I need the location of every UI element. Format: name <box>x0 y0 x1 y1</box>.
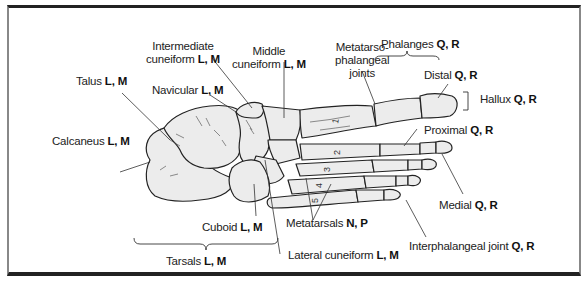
toe-2-middle <box>420 142 436 154</box>
leader-medial <box>442 154 463 194</box>
toe-3-middle <box>408 160 422 170</box>
cuboid-bone <box>229 160 269 202</box>
metatarsal-number-2: 2 <box>332 150 342 155</box>
label-proximal: Proximal Q, R <box>424 124 493 137</box>
label-distal: Distal Q, R <box>424 69 477 82</box>
toe-3-proximal <box>372 160 408 172</box>
toe-3-distal <box>422 159 436 169</box>
toe-2-proximal <box>380 144 420 156</box>
label-medial: Medial Q, R <box>439 199 498 212</box>
toe-4-distal <box>408 175 420 185</box>
metatarsal-number-5: 5 <box>310 198 320 203</box>
tarsals-brace <box>134 238 278 250</box>
label-interphalangeal-joint: Interphalangeal joint Q, R <box>409 240 534 253</box>
label-middle-cuneiform: Middle cuneiform L, M <box>232 45 306 71</box>
metatarsal-3-bone <box>296 160 374 176</box>
leader-calcaneus <box>120 162 150 172</box>
metatarsal-number-3: 3 <box>322 167 332 172</box>
toe-4-proximal <box>364 176 396 188</box>
label-tarsals: Tarsals L, M <box>166 255 226 268</box>
label-navicular: Navicular L, M <box>152 84 223 97</box>
hallux-bracket <box>463 92 468 110</box>
label-intermediate-cuneiform: Intermediate cuneiform L, M <box>146 40 220 66</box>
leader-talus <box>122 93 170 140</box>
label-phalanges: Phalanges Q, R <box>381 38 459 51</box>
label-talus: Talus L, M <box>76 75 127 88</box>
label-cuboid: Cuboid L, M <box>202 221 262 234</box>
leader-interphalangeal <box>406 200 426 237</box>
label-metatarsals: Metatarsals N, P <box>286 217 368 230</box>
label-calcaneus: Calcaneus L, M <box>52 135 130 148</box>
label-hallux: Hallux Q, R <box>480 93 537 106</box>
toe-5-proximal <box>356 190 384 202</box>
toe-4-middle <box>396 176 408 186</box>
toe-2-distal <box>436 141 452 153</box>
toe-5-distal <box>384 189 400 200</box>
metatarsal-number-4: 4 <box>314 183 324 188</box>
hallux-proximal-phalanx <box>374 98 422 126</box>
label-lateral-cuneiform: Lateral cuneiform L, M <box>288 249 399 262</box>
